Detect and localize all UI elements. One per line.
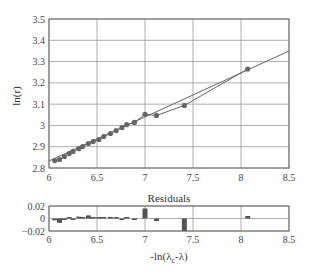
x-tick-label: 8 [239, 172, 244, 183]
x-tick-label: 8.5 [283, 234, 296, 245]
residual-bar [245, 216, 250, 219]
y-tick-label: 0 [40, 213, 45, 224]
chart: 2.82.933.13.23.33.43.566.577.588.5 ln(r)… [0, 0, 311, 276]
residual-bar [101, 217, 106, 219]
residual-bar [62, 219, 67, 221]
x-tick-label: 8 [239, 234, 244, 245]
x-tick-label: 8.5 [283, 172, 296, 183]
residuals-bars [52, 209, 250, 232]
y-axis-label: ln(r) [10, 86, 23, 106]
residual-bar [114, 217, 119, 219]
x-tick-label: 6.5 [91, 172, 104, 183]
data-point [57, 157, 62, 162]
x-tick-label: 6.5 [91, 234, 104, 245]
y-tick-label: 3.5 [33, 14, 46, 25]
residuals-title: Residuals [148, 192, 191, 204]
residual-bar [108, 217, 113, 219]
fit-line [49, 51, 289, 161]
x-axis-label: -ln(λc-λ) [150, 250, 188, 265]
x-tick-label: 6 [47, 172, 52, 183]
residual-bar [80, 217, 85, 219]
y-tick-label: 3.3 [33, 56, 46, 67]
residual-bar [124, 217, 129, 219]
x-tick-label: 7 [143, 234, 148, 245]
main-plot-ticks: 2.82.933.13.23.33.43.566.577.588.5 [33, 14, 296, 184]
x-tick-label: 7 [143, 172, 148, 183]
residual-bar [182, 219, 187, 232]
residual-bar [119, 219, 124, 221]
x-tick-label: 7.5 [187, 172, 200, 183]
x-tick-label: 6 [47, 234, 52, 245]
y-tick-label: 2.8 [33, 163, 46, 174]
residual-bar [52, 219, 57, 221]
residual-bar [154, 219, 159, 222]
residual-bar [143, 209, 148, 219]
y-tick-label: 0.02 [28, 201, 46, 212]
data-point [154, 113, 159, 118]
residual-bar [67, 217, 72, 219]
residual-bar [86, 215, 91, 218]
residual-bar [57, 219, 62, 223]
y-tick-label: −0.02 [22, 226, 45, 237]
y-tick-label: 2.9 [33, 141, 46, 152]
y-tick-label: 3.1 [33, 99, 46, 110]
x-tick-label: 7.5 [187, 234, 200, 245]
residuals-ticks: 0.020−0.0266.577.588.5 [22, 201, 295, 246]
residual-bar [71, 219, 76, 221]
residual-bar [132, 219, 137, 221]
y-tick-label: 3.2 [33, 77, 46, 88]
residual-bar [91, 217, 96, 219]
y-tick-label: 3 [40, 120, 45, 131]
residual-bar [96, 217, 101, 219]
data-point [182, 103, 187, 108]
y-tick-label: 3.4 [33, 35, 46, 46]
